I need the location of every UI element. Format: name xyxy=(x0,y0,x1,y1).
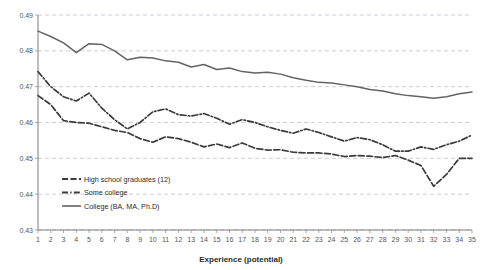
x-tick-label: 6 xyxy=(100,236,104,243)
x-tick-label: 11 xyxy=(162,236,169,243)
x-tick-label: 5 xyxy=(87,236,91,243)
x-tick-label: 10 xyxy=(149,236,157,243)
y-tick-label: 0.48 xyxy=(19,47,33,54)
x-tick-label: 29 xyxy=(392,236,400,243)
x-tick-label: 4 xyxy=(74,236,78,243)
x-tick-label: 1 xyxy=(36,236,40,243)
x-tick-label: 7 xyxy=(113,236,117,243)
x-tick-label: 14 xyxy=(200,236,208,243)
x-tick-label: 26 xyxy=(353,236,361,243)
x-tick-label: 30 xyxy=(404,236,412,243)
series-group xyxy=(38,31,472,186)
x-tick-label: 20 xyxy=(277,236,285,243)
series-line-2 xyxy=(38,31,472,98)
x-axis-title: Experience (potential) xyxy=(199,255,283,264)
x-tick-label: 18 xyxy=(251,236,259,243)
y-tick-label: 0.49 xyxy=(19,12,33,19)
x-tick-label: 27 xyxy=(366,236,374,243)
y-axis-tick-labels: 0.490.480.470.460.450.440.43 xyxy=(19,12,33,234)
x-tick-label: 12 xyxy=(175,236,183,243)
x-tick-label: 24 xyxy=(328,236,336,243)
x-tick-label: 25 xyxy=(340,236,348,243)
x-axis-tick-labels: 1234567891011121314151617181920212223242… xyxy=(36,236,476,243)
chart-canvas: 0.490.480.470.460.450.440.43 12345678910… xyxy=(0,0,482,270)
x-tick-label: 21 xyxy=(289,236,297,243)
x-tick-label: 17 xyxy=(238,236,246,243)
y-tick-label: 0.44 xyxy=(19,191,33,198)
x-tick-label: 34 xyxy=(455,236,463,243)
legend-label-2: College (BA, MA, Ph.D) xyxy=(84,202,160,211)
x-tick-label: 33 xyxy=(443,236,451,243)
x-tick-label: 13 xyxy=(187,236,195,243)
y-tick-label: 0.46 xyxy=(19,119,33,126)
x-tick-label: 8 xyxy=(125,236,129,243)
y-tick-label: 0.47 xyxy=(19,83,33,90)
x-tick-label: 19 xyxy=(264,236,272,243)
x-tick-label: 31 xyxy=(417,236,425,243)
legend-label-1: Some college xyxy=(84,188,128,197)
x-tick-label: 2 xyxy=(49,236,53,243)
x-tick-label: 28 xyxy=(379,236,387,243)
legend-label-0: High school graduates (12) xyxy=(84,175,170,184)
x-tick-label: 9 xyxy=(138,236,142,243)
x-tick-label: 22 xyxy=(302,236,310,243)
chart-legend: High school graduates (12)Some collegeCo… xyxy=(62,175,170,211)
x-tick-label: 23 xyxy=(315,236,323,243)
y-tick-label: 0.43 xyxy=(19,227,33,234)
x-tick-label: 35 xyxy=(468,236,476,243)
series-line-1 xyxy=(38,72,472,152)
y-tick-label: 0.45 xyxy=(19,155,33,162)
x-tick-label: 15 xyxy=(213,236,221,243)
x-tick-label: 3 xyxy=(62,236,66,243)
x-tick-label: 16 xyxy=(226,236,234,243)
x-tick-label: 32 xyxy=(430,236,438,243)
line-chart: 0.490.480.470.460.450.440.43 12345678910… xyxy=(0,0,482,270)
